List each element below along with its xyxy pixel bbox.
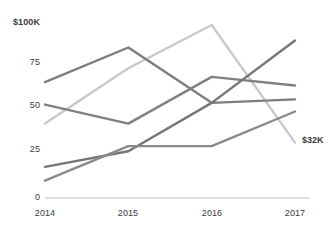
chart-plot-area bbox=[0, 0, 333, 233]
x-tick-label-2016: 2016 bbox=[192, 209, 232, 218]
y-tick-label-0: 0 bbox=[4, 193, 40, 202]
line-chart: $100K 75 50 25 0 2014 2015 2016 2017 $32… bbox=[0, 0, 333, 233]
series-line-2 bbox=[45, 47, 295, 102]
x-tick-label-2017: 2017 bbox=[275, 209, 315, 218]
y-tick-label-50: 50 bbox=[4, 101, 40, 110]
y-tick-label-100k: $100K bbox=[4, 18, 40, 27]
series-lines bbox=[45, 25, 295, 181]
x-tick-label-2015: 2015 bbox=[108, 209, 148, 218]
series-line-5 bbox=[45, 112, 295, 181]
series-line-4 bbox=[45, 41, 295, 167]
end-value-annotation: $32K bbox=[302, 136, 324, 145]
series-line-1 bbox=[45, 25, 295, 143]
y-tick-label-25: 25 bbox=[4, 145, 40, 154]
y-tick-label-75: 75 bbox=[4, 58, 40, 67]
x-tick-label-2014: 2014 bbox=[25, 209, 65, 218]
